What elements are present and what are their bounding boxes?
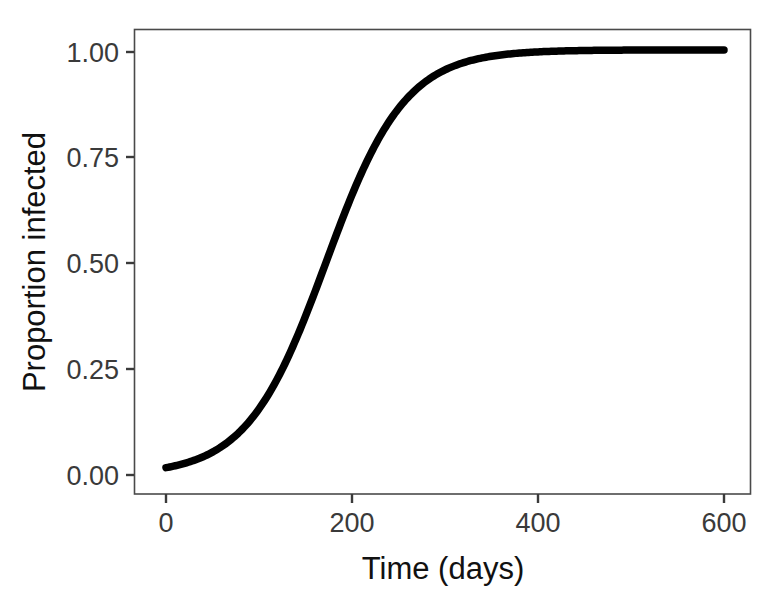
y-tick-label-0-00: 0.00: [66, 461, 119, 491]
y-tick-label-0-75: 0.75: [66, 143, 119, 173]
x-tick-label-400: 400: [515, 508, 560, 538]
y-tick-label-1-00: 1.00: [66, 38, 119, 68]
x-tick-label-200: 200: [329, 508, 374, 538]
x-tick-label-0: 0: [158, 508, 173, 538]
x-tick-label-600: 600: [701, 508, 746, 538]
y-tick-label-0-25: 0.25: [66, 355, 119, 385]
y-axis-title: Proportion infected: [17, 132, 52, 392]
chart-background: [0, 0, 780, 599]
x-axis-title: Time (days): [362, 551, 524, 586]
chart-page: 1.00 0.75 0.50 0.25 0.00 0 200 400 600 T…: [0, 0, 780, 599]
y-tick-label-0-50: 0.50: [66, 249, 119, 279]
logistic-growth-chart: 1.00 0.75 0.50 0.25 0.00 0 200 400 600 T…: [0, 0, 780, 599]
